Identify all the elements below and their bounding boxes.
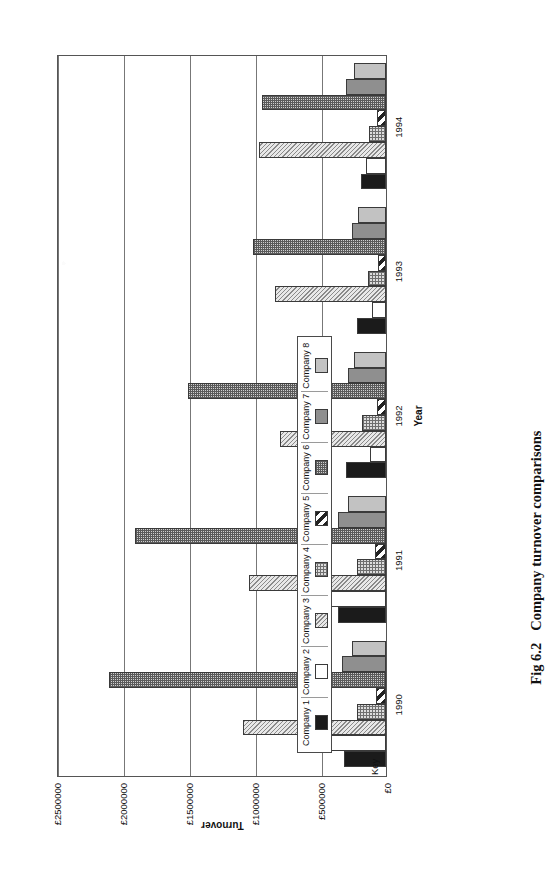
legend-swatch-fine-grid	[315, 562, 328, 577]
gridline	[58, 56, 59, 776]
figure-title: Company turnover comparisons	[528, 431, 544, 631]
legend-item-label: Company 1	[301, 700, 311, 746]
gridline	[124, 56, 125, 776]
bar-1990-company-4	[357, 704, 386, 720]
legend-swatch-solid-dark-gray	[315, 409, 328, 424]
legend-item-6[interactable]: Company 6	[301, 442, 328, 493]
value-axis-tick-label: £0	[382, 783, 393, 839]
chart-figure: Turnover £0£500000£1000000£1500000£20000…	[39, 39, 491, 839]
legend-item-label: Company 5	[301, 496, 311, 542]
category-label-1993: 1993	[393, 261, 404, 282]
legend-swatch-solid-white	[315, 664, 328, 679]
category-label-1994: 1994	[393, 117, 404, 138]
bar-1991-company-8	[348, 496, 386, 512]
bar-1990-company-5	[376, 688, 386, 704]
gridline	[256, 56, 257, 776]
bar-1993-company-6	[253, 239, 386, 255]
bar-1993-company-3	[275, 286, 386, 302]
legend-item-8[interactable]: Company 8	[301, 341, 328, 391]
bar-1990-company-2	[331, 735, 386, 751]
bar-1994-company-7	[346, 79, 386, 95]
bar-1994-company-4	[369, 126, 386, 142]
bar-1991-company-7	[338, 512, 386, 528]
bar-1991-company-2	[328, 591, 386, 607]
bar-1994-company-1	[361, 174, 386, 190]
legend-item-4[interactable]: Company 4	[301, 544, 328, 595]
legend-item-3[interactable]: Company 3	[301, 595, 328, 646]
value-axis-tick-label: £2000000	[118, 783, 129, 839]
legend-swatch-dense-grid	[315, 460, 328, 475]
legend: Company 1Company 2Company 3Company 4Comp…	[297, 336, 332, 753]
legend-item-2[interactable]: Company 2	[301, 646, 328, 697]
legend-item-label: Company 8	[301, 343, 311, 389]
legend-swatch-solid-black	[315, 715, 328, 730]
category-axis-title: Year	[413, 55, 424, 777]
legend-item-7[interactable]: Company 7	[301, 391, 328, 442]
bar-1993-company-8	[358, 207, 386, 223]
legend-item-label: Company 3	[301, 598, 311, 644]
bar-1992-company-8	[354, 352, 386, 368]
legend-item-label: Company 7	[301, 394, 311, 440]
value-axis-tick-label: £2500000	[52, 783, 63, 839]
bar-1993-company-5	[378, 255, 386, 271]
value-axis-tick-label: £1000000	[250, 783, 261, 839]
legend-item-1[interactable]: Company 1	[301, 697, 328, 748]
bar-1991-company-1	[338, 607, 386, 623]
legend-swatch-light-hatch	[315, 613, 328, 628]
bar-1993-company-4	[368, 271, 386, 287]
category-label-1991: 1991	[393, 550, 404, 571]
bar-1991-company-5	[375, 544, 386, 560]
gridline	[190, 56, 191, 776]
plot-area	[57, 55, 387, 777]
bar-1991-company-4	[357, 559, 386, 575]
bar-1992-company-1	[346, 462, 386, 478]
bar-1991-company-6	[135, 528, 386, 544]
legend-item-label: Company 6	[301, 445, 311, 491]
category-label-1992: 1992	[393, 405, 404, 426]
value-axis-tick-label: £1500000	[184, 783, 195, 839]
bar-1994-company-2	[366, 158, 386, 174]
value-axis-tick-label: £500000	[316, 783, 327, 839]
legend-item-label: Company 2	[301, 649, 311, 695]
legend-swatch-diagonal-stripe	[315, 511, 328, 526]
bar-1990-company-8	[352, 641, 386, 657]
legend-swatch-solid-light-gray	[315, 358, 328, 373]
bar-1994-company-6	[262, 95, 386, 111]
bar-1990-company-6	[109, 672, 386, 688]
chart-canvas: Turnover £0£500000£1000000£1500000£20000…	[39, 39, 491, 839]
bar-1993-company-1	[357, 318, 386, 334]
legend-title: Key	[369, 759, 380, 775]
bar-1993-company-2	[372, 302, 386, 318]
legend-item-label: Company 4	[301, 547, 311, 593]
bar-1994-company-8	[354, 63, 386, 79]
bar-1993-company-7	[352, 223, 386, 239]
bar-1992-company-5	[377, 399, 386, 415]
bar-1994-company-3	[259, 142, 386, 158]
category-label-1990: 1990	[393, 694, 404, 715]
bar-1990-company-7	[342, 656, 386, 672]
figure-caption: Fig 6.2Company turnover comparisons	[528, 431, 545, 685]
bar-1992-company-4	[362, 415, 386, 431]
legend-item-5[interactable]: Company 5	[301, 493, 328, 544]
bar-1994-company-5	[377, 110, 386, 126]
figure-number: Fig 6.2	[528, 643, 544, 685]
value-axis-ticks: £0£500000£1000000£1500000£2000000£250000…	[57, 777, 387, 839]
bar-1992-company-6	[188, 383, 386, 399]
bar-1992-company-2	[370, 447, 386, 463]
bar-1992-company-7	[348, 368, 386, 384]
